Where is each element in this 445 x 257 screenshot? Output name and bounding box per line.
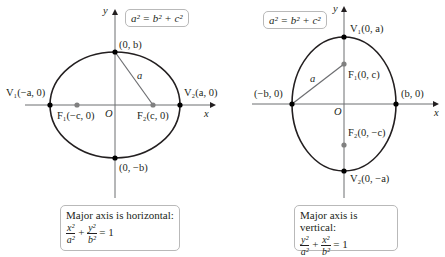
v1-label: V₁(0, a)	[350, 24, 383, 35]
focus-f2	[341, 142, 346, 147]
x-axis-label: x	[434, 108, 439, 119]
y-axis-label: y	[333, 4, 338, 15]
focus-f1	[74, 102, 79, 107]
f1-label: F₁(0, c)	[348, 70, 380, 81]
focus-f2	[150, 102, 155, 107]
caption-title: Major axis is vertical:	[300, 209, 392, 233]
origin-label: O	[334, 107, 342, 118]
caption-box-left: Major axis is horizontal: x²a² + y²b² = …	[60, 205, 180, 251]
y-axis-arrow-icon	[112, 9, 118, 15]
x-axis-label: x	[204, 109, 209, 120]
x-axis-arrow-icon	[210, 102, 216, 108]
vertex-v2	[341, 168, 346, 173]
v2-label: V₂(0, −a)	[350, 174, 389, 185]
left-point-label: (−b, 0)	[254, 89, 283, 100]
caption-box-right: Major axis is vertical: y²a² + x²b² = 1	[294, 205, 398, 251]
segment-a-label: a	[137, 71, 142, 82]
vertex-v2	[177, 102, 182, 107]
focus-f1	[341, 61, 346, 66]
top-point-label: (0, b)	[119, 40, 142, 51]
vertex-v1	[47, 102, 52, 107]
standard-equation: x²a² + y²b² = 1	[66, 222, 174, 245]
co-vertex-top	[112, 49, 117, 54]
segment-a	[115, 52, 153, 105]
right-ellipse-figure	[252, 6, 439, 198]
f2-label: F₂(c, 0)	[137, 111, 169, 122]
bottom-point-label: (0, −b)	[119, 163, 148, 174]
segment-a-label: a	[310, 74, 315, 85]
relation-box-right: a² = b² + c²	[263, 11, 327, 29]
f1-label: F₁(−c, 0)	[57, 111, 95, 122]
right-point-label: (b, 0)	[401, 89, 424, 100]
co-vertex-bottom	[112, 155, 117, 160]
caption-title: Major axis is horizontal:	[66, 209, 174, 221]
standard-equation: y²a² + x²b² = 1	[300, 234, 392, 257]
y-axis-arrow-icon	[341, 6, 347, 12]
co-vertex-right	[393, 101, 398, 106]
v1-label: V₁(−a, 0)	[6, 88, 45, 99]
co-vertex-left	[289, 101, 294, 106]
y-axis-label: y	[103, 6, 108, 17]
relation-box-left: a² = b² + c²	[125, 9, 189, 27]
origin-label: O	[105, 109, 113, 120]
f2-label: F₂(0, −c)	[348, 128, 386, 139]
vertex-v1	[341, 34, 346, 39]
v2-label: V₂(a, 0)	[184, 88, 217, 99]
